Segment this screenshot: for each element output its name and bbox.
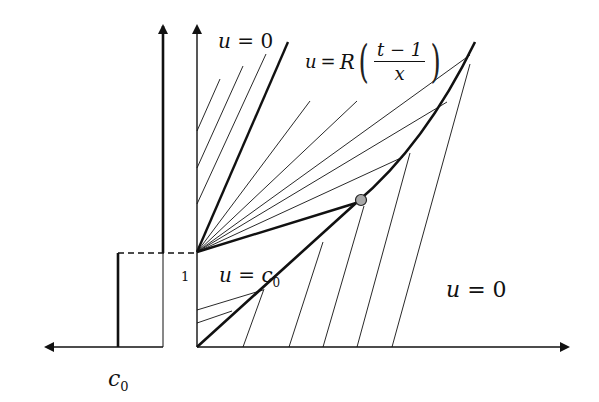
label-eq: = — [321, 53, 336, 71]
right-paren: ) — [431, 40, 441, 84]
label-eq: = — [467, 277, 485, 302]
characteristics-diagram — [0, 0, 599, 402]
label-u-c0: u = c0 — [219, 265, 280, 289]
lower-right-characteristics — [243, 64, 470, 347]
label-var: u — [218, 29, 231, 53]
label-func: R — [340, 52, 355, 72]
label-val: 0 — [260, 29, 273, 53]
label-var: u — [446, 277, 460, 302]
label-eq: = — [237, 29, 254, 53]
left-paren: ( — [358, 40, 368, 84]
shock-formation-marker — [356, 195, 367, 206]
initial-data-plot — [46, 26, 197, 347]
label-val: 0 — [493, 277, 507, 302]
label-val: c — [108, 366, 120, 391]
fan-left-boundary — [197, 42, 288, 252]
label-var: u — [305, 53, 317, 71]
label-u-zero-right: u = 0 — [446, 279, 507, 301]
label-sub: 0 — [273, 276, 281, 290]
label-sub: 0 — [120, 379, 128, 394]
label-val: c — [261, 263, 272, 287]
fraction-denominator: x — [394, 62, 404, 83]
label-u-zero-top: u = 0 — [218, 31, 273, 51]
label-eq: = — [238, 263, 255, 287]
fraction: t − 1 x — [374, 41, 425, 83]
fan-right-boundary — [197, 203, 356, 252]
upper-left-characteristics — [197, 54, 266, 204]
axis-label-c0: c0 — [108, 368, 129, 393]
label-u-rarefaction: u = R ( t − 1 x ) — [305, 40, 444, 84]
fraction-numerator: t − 1 — [374, 41, 425, 62]
tick-label-one: 1 — [181, 270, 189, 283]
label-var: u — [219, 263, 232, 287]
